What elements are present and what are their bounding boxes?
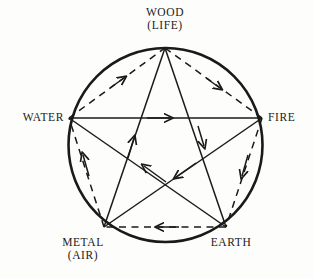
- wuxing-svg-canvas: [0, 0, 314, 279]
- node-name-earth: EARTH: [211, 236, 252, 248]
- node-name-water: WATER: [23, 111, 64, 123]
- arrowhead-wood-fire: [206, 78, 220, 88]
- arrowhead-wood-earth: [198, 126, 204, 146]
- arrowhead-fire-metal: [176, 163, 196, 177]
- outer-circle: [69, 48, 263, 242]
- generating-arrowheads-group: [83, 78, 248, 227]
- arrowhead-water-wood: [110, 78, 124, 88]
- node-label-wood: WOOD (LIFE): [131, 6, 199, 32]
- edge-metal-water: [69, 118, 104, 227]
- node-alt-wood: (LIFE): [131, 19, 199, 32]
- node-alt-metal: (AIR): [49, 249, 117, 262]
- arrowhead-earth-water: [144, 166, 166, 182]
- node-name-fire: FIRE: [268, 111, 295, 123]
- arrowhead-fire-earth: [242, 155, 248, 176]
- node-label-earth: EARTH: [200, 236, 262, 249]
- wuxing-diagram: WOOD (LIFE) WATER FIRE METAL (AIR) EARTH: [0, 0, 314, 279]
- edge-fire-earth: [226, 118, 262, 227]
- node-label-water: WATER: [6, 111, 64, 124]
- node-name-metal: METAL: [62, 236, 104, 248]
- arrowhead-metal-wood: [128, 138, 134, 158]
- node-name-wood: WOOD: [146, 6, 184, 18]
- node-label-metal: METAL (AIR): [49, 236, 117, 262]
- node-label-fire: FIRE: [268, 111, 312, 124]
- edge-metal-wood: [104, 48, 165, 227]
- edge-wood-earth: [165, 48, 226, 227]
